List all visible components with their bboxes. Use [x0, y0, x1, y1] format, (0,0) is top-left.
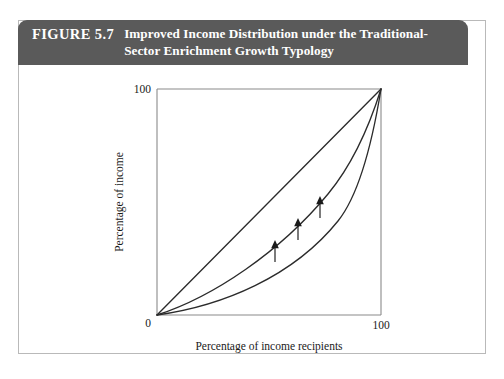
figure-root: FIGURE 5.7 Improved Income Distribution … — [0, 0, 504, 379]
series-line-of-equality — [157, 89, 381, 315]
figure-caption-line-2: Sector Enrichment Growth Typology — [124, 43, 334, 58]
figure-caption: Improved Income Distribution under the T… — [124, 25, 468, 59]
chart-series-group — [157, 89, 381, 315]
y-axis-tick-100: 100 — [134, 83, 152, 95]
figure-number-label: FIGURE 5.7 — [18, 25, 124, 43]
shift-arrow-1 — [271, 240, 279, 262]
chart-plot-area: 100 0 100 Percentage of income recipient… — [18, 66, 486, 354]
x-axis-tick-100: 100 — [372, 319, 390, 331]
figure-header-bar: FIGURE 5.7 Improved Income Distribution … — [18, 20, 468, 65]
y-axis-title: Percentage of income — [113, 152, 126, 252]
figure-caption-line-1: Improved Income Distribution under the T… — [124, 26, 428, 41]
lorenz-curve-chart: 100 0 100 Percentage of income recipient… — [18, 66, 486, 354]
x-axis-title: Percentage of income recipients — [195, 340, 343, 353]
y-axis-tick-0: 0 — [145, 317, 151, 329]
chart-annotations-group — [271, 196, 324, 262]
